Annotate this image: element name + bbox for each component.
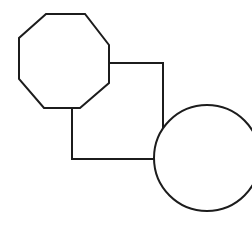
diagram-svg [0,0,252,229]
circle-shape [154,105,252,211]
diagram-canvas [0,0,252,229]
